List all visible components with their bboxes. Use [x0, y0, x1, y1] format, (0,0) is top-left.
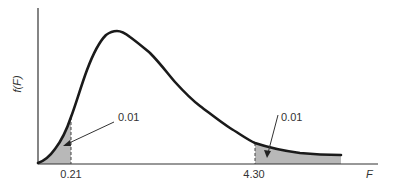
f-distribution-chart	[0, 0, 398, 186]
x-axis-label: F	[366, 168, 373, 180]
x-tick-upper: 4.30	[243, 168, 264, 180]
lower-tail-shade	[38, 117, 71, 164]
x-tick-lower: 0.21	[60, 168, 81, 180]
density-curve	[38, 31, 341, 163]
annotation-right-area: 0.01	[281, 111, 302, 123]
annotation-arrow-left	[67, 122, 114, 144]
annotation-left-area: 0.01	[118, 111, 139, 123]
y-axis-label: f(F)	[11, 70, 23, 98]
